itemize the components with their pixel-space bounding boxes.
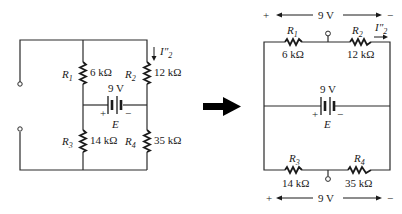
r3-label: R3: [288, 152, 300, 167]
r3-value: 14 kΩ: [90, 134, 117, 146]
r4-label: R4: [124, 135, 136, 150]
r1-value: 6 kΩ: [90, 66, 112, 78]
current-label: I″2: [374, 21, 387, 36]
r2-value: 12 kΩ: [347, 48, 374, 60]
r2-label: R2: [124, 68, 136, 83]
r4-value: 35 kΩ: [154, 134, 181, 146]
terminal-icon: [326, 177, 331, 182]
r1-label: R1: [286, 24, 298, 39]
terminal-icon: [326, 31, 331, 36]
source-minus-sign: −: [125, 107, 131, 119]
resistor-r3-icon: [285, 167, 302, 173]
source-minus-sign: −: [337, 108, 343, 120]
terminal-icon: [18, 82, 22, 86]
r3-label: R3: [61, 135, 73, 150]
circuit-diagram: R1 6 kΩ R2 12 kΩ I″2 9 V + − E R3 14 kΩ …: [0, 0, 402, 214]
resistor-r1-icon: [80, 62, 86, 84]
source-voltage-label: 9 V: [108, 82, 124, 94]
source-name-label: E: [323, 118, 331, 130]
right-circuit: + 9 V −: [263, 9, 393, 204]
battery-icon: [108, 96, 121, 114]
bottom-voltage-minus: −: [387, 192, 393, 204]
r3-value: 14 kΩ: [282, 177, 309, 189]
battery-icon: [321, 97, 334, 115]
resistor-r4-icon: [348, 167, 371, 173]
r2-label: R2: [351, 24, 363, 39]
resistor-r4-icon: [144, 130, 150, 152]
current-arrow-icon: [152, 47, 157, 61]
source-voltage-label: 9 V: [320, 83, 336, 95]
top-voltage-minus: −: [387, 9, 393, 21]
resistor-r2-icon: [350, 39, 371, 45]
current-label: I″2: [159, 45, 172, 60]
terminal-icon: [18, 127, 22, 131]
r4-label: R4: [353, 152, 365, 167]
top-voltage-plus: +: [263, 9, 269, 21]
r2-value: 12 kΩ: [154, 66, 181, 78]
bottom-voltage-plus: +: [266, 192, 272, 204]
resistor-r3-icon: [80, 130, 86, 152]
resistor-r1-icon: [285, 39, 302, 45]
r1-value: 6 kΩ: [282, 48, 304, 60]
source-name-label: E: [111, 118, 119, 130]
r1-label: R1: [61, 68, 73, 83]
source-plus-sign: +: [312, 108, 318, 120]
top-voltage-value: 9 V: [318, 9, 334, 21]
resistor-r2-icon: [144, 62, 150, 84]
source-plus-sign: +: [100, 107, 106, 119]
left-circuit: R1 6 kΩ R2 12 kΩ I″2 9 V + − E R3 14 kΩ …: [18, 40, 182, 170]
r4-value: 35 kΩ: [345, 177, 372, 189]
transform-arrow-icon: [203, 97, 241, 116]
bottom-voltage-value: 9 V: [318, 192, 334, 204]
